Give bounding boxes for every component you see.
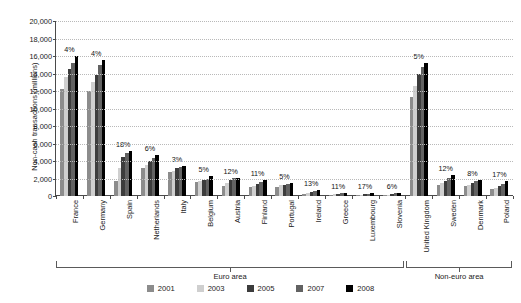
gridline	[56, 91, 513, 92]
bar-2008	[370, 193, 374, 196]
x-axis-category: Netherlands	[136, 200, 163, 258]
x-axis-tick-mark	[325, 196, 326, 199]
legend-swatch	[247, 285, 254, 292]
y-axis-tick-label: 14,000	[29, 69, 56, 78]
growth-rate-label: 5%	[279, 172, 289, 181]
bar-2008	[478, 180, 482, 196]
x-axis-tick-mark	[405, 196, 406, 199]
y-axis-tick-mark	[53, 144, 56, 145]
legend-label: 2003	[208, 284, 225, 293]
x-axis-tick-mark	[83, 196, 84, 199]
x-axis-tick-mark	[110, 196, 111, 199]
growth-rate-label: 11%	[251, 169, 265, 178]
bar-2008	[344, 193, 348, 196]
bracket	[406, 261, 512, 268]
legend-label: 2001	[158, 284, 175, 293]
growth-rate-label: 12%	[438, 164, 452, 173]
x-axis-category-label: Italy	[179, 200, 188, 214]
x-axis-category: Spain	[109, 200, 136, 258]
legend-item: 2008	[346, 284, 374, 293]
x-axis-category-label: Portugal	[287, 200, 296, 228]
x-axis-category-label: Austria	[233, 200, 242, 223]
x-axis-category: United Kingdom	[405, 200, 432, 258]
x-axis-tick-mark	[164, 196, 165, 199]
x-axis-category: Italy	[163, 200, 190, 258]
bar-2008	[397, 193, 401, 196]
legend-swatch	[197, 285, 204, 292]
growth-rate-label: 13%	[304, 179, 318, 188]
x-axis-category-label: Slovenia	[395, 200, 404, 228]
y-axis-tick-mark	[53, 109, 56, 110]
x-axis-category-label: Denmark	[476, 200, 485, 230]
x-axis-category: Poland	[486, 200, 513, 258]
gridline	[56, 126, 513, 127]
x-axis-tick-mark	[244, 196, 245, 199]
x-axis-category-label: Belgium	[206, 200, 215, 227]
y-axis-tick-mark	[53, 126, 56, 127]
growth-rate-label: 5%	[199, 165, 209, 174]
legend-swatch	[346, 285, 353, 292]
x-axis-tick-mark	[271, 196, 272, 199]
legend-item: 2001	[147, 284, 175, 293]
x-axis-tick-mark	[513, 196, 514, 199]
bar-2008	[290, 183, 294, 196]
gridline	[56, 21, 513, 22]
y-axis-tick-label: 20,000	[29, 17, 56, 26]
x-axis-tick-mark	[217, 196, 218, 199]
chart-legend: 20012003200520072008	[0, 284, 521, 293]
x-axis-category-label: Netherlands	[152, 200, 161, 240]
x-axis-category-label: Germany	[98, 200, 107, 230]
x-axis-category-label: France	[71, 200, 80, 223]
x-axis-category: France	[55, 200, 82, 258]
bar-2008	[102, 60, 106, 196]
growth-rate-label: 11%	[331, 182, 345, 191]
growth-rate-label: 3%	[172, 155, 182, 164]
x-axis-tick-mark	[352, 196, 353, 199]
x-axis-category-label: Ireland	[314, 200, 323, 223]
x-axis-category: Luxembourg	[351, 200, 378, 258]
bracket-label: Non-euro area	[435, 272, 484, 281]
y-axis-tick-label: 12,000	[29, 87, 56, 96]
gridline	[56, 74, 513, 75]
bar-2008	[182, 166, 186, 196]
x-axis-tick-mark	[379, 196, 380, 199]
growth-rate-label: 12%	[223, 167, 237, 176]
y-axis-tick-label: 18,000	[29, 34, 56, 43]
x-axis-category-label: Finland	[260, 200, 269, 224]
x-axis-category: Portugal	[271, 200, 298, 258]
bar-2008	[263, 180, 267, 196]
growth-rate-label: 17%	[358, 182, 372, 191]
x-axis-tick-mark	[56, 196, 57, 199]
bracket	[56, 261, 404, 268]
bar-2008	[317, 190, 321, 196]
x-axis-tick-mark	[486, 196, 487, 199]
x-axis-category: Slovenia	[378, 200, 405, 258]
x-axis-category: Ireland	[297, 200, 324, 258]
legend-label: 2007	[307, 284, 324, 293]
x-axis-category-label: Greece	[341, 200, 350, 224]
legend-item: 2007	[296, 284, 324, 293]
y-axis-tick-mark	[53, 74, 56, 75]
growth-rate-label: 6%	[387, 182, 397, 191]
gridline	[56, 39, 513, 40]
x-axis-category: Sweden	[432, 200, 459, 258]
growth-rate-label: 4%	[91, 49, 101, 58]
bar-2008	[424, 63, 428, 196]
x-axis-category-label: Spain	[125, 200, 134, 219]
gridline	[56, 56, 513, 57]
legend-item: 2003	[197, 284, 225, 293]
legend-swatch	[296, 285, 303, 292]
bar-chart: Non-cash transactions (millions) 4%4%18%…	[0, 0, 521, 303]
y-axis-tick-mark	[53, 21, 56, 22]
growth-rate-label: 8%	[467, 169, 477, 178]
x-axis-category: Belgium	[190, 200, 217, 258]
bracket-label: Euro area	[213, 272, 246, 281]
y-axis-tick-mark	[53, 39, 56, 40]
y-axis-tick-mark	[53, 196, 56, 197]
legend-label: 2008	[357, 284, 374, 293]
y-axis-tick-label: 10,000	[29, 104, 56, 113]
legend-label: 2005	[258, 284, 275, 293]
y-axis-tick-mark	[53, 56, 56, 57]
legend-item: 2005	[247, 284, 275, 293]
x-axis-category-label: Sweden	[449, 200, 458, 227]
